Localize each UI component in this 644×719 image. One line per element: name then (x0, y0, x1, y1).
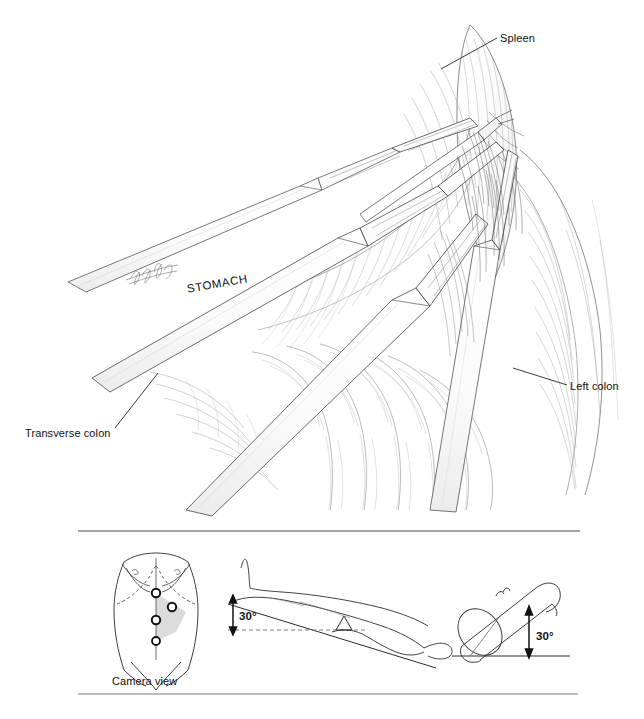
main-illustration: Spleen STOMACH Transverse colon Left col… (0, 0, 644, 520)
port-placement-diagram (114, 553, 198, 690)
port-2 (168, 603, 176, 611)
label-spleen: Spleen (500, 32, 535, 44)
patient-silhouette (232, 559, 452, 659)
positioning-panel-drawing (0, 520, 644, 719)
operative-view-drawing (0, 0, 644, 520)
label-camera-view: Camera view (112, 675, 177, 687)
label-angle-lateral: 30° (239, 610, 257, 622)
positioning-panel: Camera view 30° 30° (0, 520, 644, 719)
port-4 (152, 637, 160, 645)
transverse-colon-organ (150, 372, 278, 490)
angle-arrow-roll (526, 606, 533, 658)
camera-view-sector (156, 593, 186, 641)
label-left-colon: Left colon (570, 380, 619, 392)
angle-arrow-lateral (230, 595, 237, 635)
table-tilt-lateral-diagram (228, 559, 452, 668)
leader-left-colon (513, 368, 567, 385)
port-3 (152, 616, 160, 624)
left-colon-organ (512, 150, 618, 500)
port-1 (152, 589, 160, 597)
illustration-plate: Spleen STOMACH Transverse colon Left col… (0, 0, 644, 719)
table-tilt-roll-diagram (449, 583, 570, 664)
label-angle-roll: 30° (536, 630, 554, 642)
cylinder-torso (449, 583, 560, 664)
label-transverse-colon: Transverse colon (25, 427, 111, 439)
